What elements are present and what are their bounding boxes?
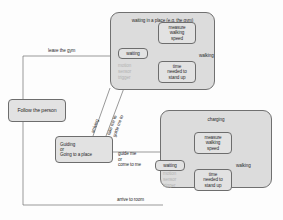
- node-charging-time-to-stand-up[interactable]: time needed to stand up: [194, 169, 232, 191]
- node-charging-measure-walking-speed[interactable]: measure walking speed: [194, 132, 232, 154]
- charging-walking-edge-label: walking: [236, 163, 251, 169]
- edge-label-arrive-to-room: arrive to room: [117, 197, 144, 203]
- node-charging-waiting[interactable]: waiting: [155, 160, 185, 171]
- node-gym-time-to-stand-up[interactable]: time needed to stand up: [158, 61, 196, 83]
- edge-label-take-me-to: take me to guide me to: [106, 112, 124, 137]
- edge-arrive-to-room: [23, 122, 163, 205]
- node-gym-waiting[interactable]: waiting: [118, 48, 148, 59]
- group-title-charging: charging: [160, 117, 272, 122]
- edge-label-arriving: arriving: [90, 119, 100, 134]
- node-gym-measure-walking-speed[interactable]: measure walking speed: [158, 22, 196, 44]
- charging-motion-sensor-trigger-label: motion sensor trigger: [163, 171, 176, 189]
- gym-walking-edge-label: walking: [199, 53, 214, 59]
- diagram-canvas: waiting in a place (e.g. the gym) waitin…: [0, 0, 283, 220]
- node-follow-the-person[interactable]: Follow the person: [8, 99, 66, 122]
- node-guiding-or-going-to-a-place[interactable]: Guiding or Going to a place: [55, 136, 113, 163]
- edge-leave-the-gym: [23, 56, 110, 99]
- edge-label-leave-the-gym: leave the gym: [48, 48, 75, 54]
- gym-motion-sensor-trigger-label: motion sensor trigger: [118, 63, 131, 81]
- edge-label-guide-me-or-come-to-me: guide me or come to me: [118, 151, 141, 168]
